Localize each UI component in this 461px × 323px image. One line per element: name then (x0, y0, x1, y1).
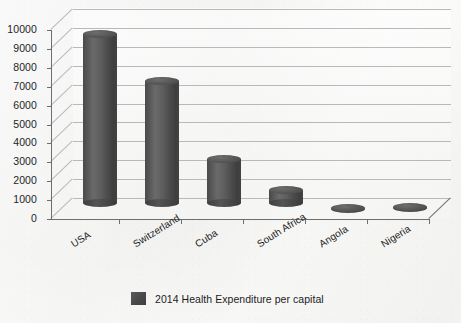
gridline-depth-edge (50, 197, 73, 219)
y-axis-tick-label: 5000 (0, 118, 37, 130)
gridline-depth-edge (50, 103, 73, 125)
y-axis-tick (47, 125, 52, 126)
chart-page: 1000090008000700060005000400030002000100… (0, 0, 461, 323)
gridline-depth-edge (50, 122, 73, 144)
y-axis-tick-label: 0 (0, 212, 37, 224)
x-axis-tick (367, 219, 368, 224)
gridline-depth-edge (50, 141, 73, 163)
bar-cylinder-base (83, 199, 117, 207)
y-axis-tick-label: 4000 (0, 136, 37, 148)
gridline-depth-edge (50, 84, 73, 106)
bar-cylinder-body (207, 159, 241, 204)
y-axis-tick (47, 30, 52, 31)
gridline (73, 66, 451, 67)
bar-cylinder-top (83, 30, 117, 38)
bar-usa (83, 30, 117, 208)
x-axis-tick (429, 219, 430, 224)
bar-cylinder-top (145, 77, 179, 85)
y-axis-tick-label: 10000 (0, 23, 37, 35)
gridline-depth-edge (50, 159, 73, 181)
gridline (73, 141, 451, 142)
y-axis-tick-label: 2000 (0, 174, 37, 186)
bar-cuba (207, 155, 241, 208)
bar-cylinder-body (145, 81, 179, 203)
gridline-depth-edge (50, 27, 73, 49)
chart-legend: 2014 Health Expenditure per capital (131, 292, 324, 305)
bar-cylinder-top (331, 204, 365, 212)
y-axis-tick (47, 162, 52, 163)
bar-cylinder-base (269, 199, 303, 207)
y-axis-tick (47, 87, 52, 88)
x-axis-line (51, 219, 429, 220)
y-axis-tick-label: 3000 (0, 155, 37, 167)
bar-cylinder-body (83, 34, 117, 204)
gridline-depth-edge (50, 46, 73, 68)
plot-area: 1000090008000700060005000400030002000100… (51, 8, 451, 240)
legend-label: 2014 Health Expenditure per capital (155, 293, 324, 305)
gridline-depth-edge (50, 65, 73, 87)
gridline (73, 104, 451, 105)
x-axis-tick (119, 219, 120, 224)
gridline (73, 28, 451, 29)
y-axis-tick-label: 6000 (0, 99, 37, 111)
y-axis-tick (47, 68, 52, 69)
y-axis-tick-label: 1000 (0, 193, 37, 205)
gridline (73, 160, 451, 161)
y-axis-tick (47, 49, 52, 50)
gridline (73, 122, 451, 123)
y-axis-tick-label: 7000 (0, 80, 37, 92)
y-axis-tick-label: 9000 (0, 42, 37, 54)
bar-cylinder-top (207, 155, 241, 163)
y-axis-tick (47, 143, 52, 144)
y-axis-tick (47, 106, 52, 107)
bar-cylinder-top (269, 186, 303, 194)
bar-cylinder-base (145, 199, 179, 207)
gridline (73, 9, 451, 10)
x-axis-tick (243, 219, 244, 224)
legend-color-swatch (131, 292, 146, 305)
bar-nigeria (393, 203, 427, 212)
bar-south-africa (269, 186, 303, 208)
bar-cylinder-base (207, 199, 241, 207)
gridline (73, 85, 451, 86)
y-axis-tick (47, 200, 52, 201)
bar-switzerland (145, 77, 179, 207)
bar-angola (331, 204, 365, 213)
chart-back-wall (73, 8, 451, 219)
gridline-depth-edge (50, 178, 73, 200)
y-axis-tick (47, 181, 52, 182)
gridline (73, 179, 451, 180)
gridline (73, 47, 451, 48)
y-axis-tick-label: 8000 (0, 61, 37, 73)
gridline (73, 198, 451, 199)
gridline-depth-edge (50, 8, 73, 30)
